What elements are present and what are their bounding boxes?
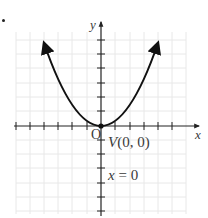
axis-of-symmetry-label: x = 0 [108,168,138,183]
y-axis-label: y [90,18,96,31]
x-axis-label: x [195,128,201,141]
vertex-label: V(0, 0) [108,135,150,150]
graph-canvas [0,0,208,218]
origin-label: O [91,128,101,142]
list-bullet [2,19,5,22]
y-axis [97,22,105,216]
parabola-figure: y x O V(0, 0) x = 0 [0,0,208,218]
